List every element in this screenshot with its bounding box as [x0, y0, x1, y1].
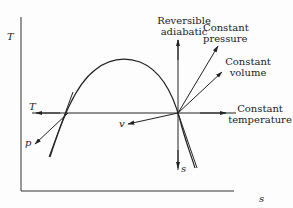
constant-volume-line	[178, 72, 222, 113]
steep-line-right	[178, 113, 197, 168]
p-arrow-label: p	[25, 137, 31, 148]
t-arrow-label: T	[29, 101, 36, 112]
v-arrow-label: v	[119, 118, 125, 129]
constant-temperature-label: Constant temperature	[225, 103, 293, 125]
p-arrow	[35, 113, 68, 144]
left-steep-line	[49, 92, 73, 157]
constant-volume-label: Constant volume	[223, 56, 273, 78]
y-axis-label: T	[7, 31, 14, 42]
x-axis-label: s	[259, 193, 264, 204]
s-arrow-label: s	[181, 163, 186, 174]
v-arrow	[128, 113, 178, 124]
constant-pressure-line	[178, 46, 218, 113]
t-s-diagram: T s Reversible adiabatic Constant pressu…	[0, 0, 293, 208]
constant-pressure-label: Constant pressure	[203, 22, 249, 44]
